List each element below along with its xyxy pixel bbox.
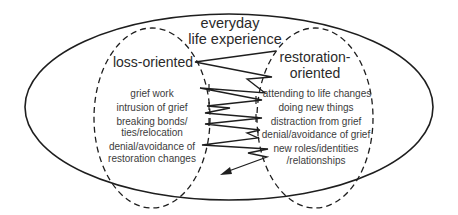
loss-item-restoration-changes: restoration changes [108, 154, 196, 164]
loss-item-intrusion-of-grief: intrusion of grief [116, 103, 187, 113]
restoration-item-distraction: distraction from grief [271, 117, 362, 127]
loss-item-denial-avoidance: denial/avoidance of [109, 142, 195, 152]
restoration-item-new-things: doing new things [278, 103, 353, 113]
restoration-heading-line2: oriented [290, 66, 341, 80]
restoration-heading-line1: restoration- [280, 50, 351, 64]
restoration-item-relationships: /relationships [287, 156, 346, 166]
restoration-item-denial-grief: denial/avoidance of grief [262, 130, 370, 140]
restoration-item-attending: attending to life changes [263, 89, 371, 99]
restoration-item-new-roles: new roles/identities [273, 144, 358, 154]
loss-oriented-heading: loss-oriented [113, 55, 193, 69]
loss-item-ties-relocation: ties/relocation [121, 128, 183, 138]
arrowhead-icon [220, 167, 232, 175]
everyday-title-line2: life experience [188, 32, 282, 47]
everyday-title-line1: everyday [201, 16, 260, 31]
oscillation-zigzag-line [195, 51, 276, 172]
loss-item-breaking-bonds: breaking bonds/ [116, 117, 187, 127]
loss-item-grief-work: grief work [130, 89, 173, 99]
